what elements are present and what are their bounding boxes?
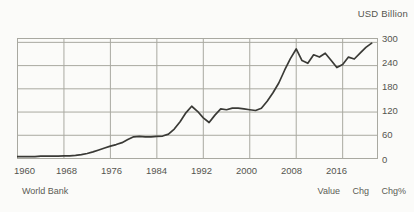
data-series-line [18,43,372,156]
footer-col-chg[interactable]: Chg [352,186,369,196]
vertical-gridlines [18,38,343,159]
y-axis-tick-60: 60 [382,130,393,140]
y-axis-tick-0: 0 [382,155,387,165]
y-axis-tick-240: 240 [382,58,398,68]
x-axis-tick-1960: 1960 [14,166,35,176]
y-axis-tick-180: 180 [382,82,398,92]
x-axis-tick-2008: 2008 [281,166,302,176]
x-axis-tick-1976: 1976 [101,166,122,176]
plot-border [18,39,378,159]
x-axis-tick-1984: 1984 [146,166,167,176]
chart-screenshot: USD Billion 300 240 180 120 60 0 1960 19… [0,0,414,212]
footer-column-headers: Value Chg Chg% [318,186,406,196]
x-axis-tick-1968: 1968 [56,166,77,176]
chart-unit-title: USD Billion [358,8,408,19]
y-axis-tick-120: 120 [382,106,398,116]
footer-col-value[interactable]: Value [318,186,340,196]
data-source-label: World Bank [22,186,68,196]
y-axis-tick-300: 300 [382,34,398,44]
chart-plot-area [17,38,378,159]
x-axis-tick-2016: 2016 [326,166,347,176]
chart-line-svg [17,38,378,159]
x-axis-tick-2000: 2000 [236,166,257,176]
horizontal-gridlines [17,42,378,158]
footer-col-chgpct[interactable]: Chg% [381,186,406,196]
x-axis-tick-1992: 1992 [191,166,212,176]
